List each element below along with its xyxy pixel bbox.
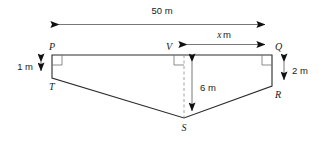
- vertex-label-t: T: [49, 81, 56, 92]
- dimension-left-height: 1 m: [17, 61, 41, 72]
- right-angle-marker-q: [262, 55, 272, 65]
- dimension-right-height: 2 m: [284, 62, 308, 80]
- vertex-label-s: S: [182, 122, 187, 133]
- centre-depth-label: 6 m: [200, 82, 216, 93]
- vertex-label-r: R: [274, 89, 281, 100]
- right-segment-unit: m: [223, 29, 231, 40]
- left-height-label: 1 m: [17, 61, 33, 72]
- figure-canvas: 50 m xm 1 m 2 m: [0, 0, 324, 146]
- right-angle-marker-v: [174, 55, 184, 65]
- vertex-label-q: Q: [275, 41, 283, 52]
- top-width-label: 50 m: [151, 5, 172, 16]
- geometry-figure: 50 m xm 1 m 2 m: [0, 0, 324, 146]
- right-segment-variable: x: [216, 30, 222, 40]
- right-height-label: 2 m: [292, 65, 308, 76]
- right-angle-marker-p: [52, 55, 62, 65]
- shape-outline: [52, 55, 272, 118]
- vertex-label-v: V: [166, 41, 174, 52]
- dimension-right-segment: xm: [187, 29, 265, 45]
- dimension-top-width: 50 m: [59, 5, 265, 25]
- trapezium-outline: [52, 55, 272, 118]
- right-segment-label: xm: [216, 29, 231, 40]
- dimension-centre-depth: 6 m: [192, 62, 216, 111]
- vertex-label-p: P: [48, 41, 55, 52]
